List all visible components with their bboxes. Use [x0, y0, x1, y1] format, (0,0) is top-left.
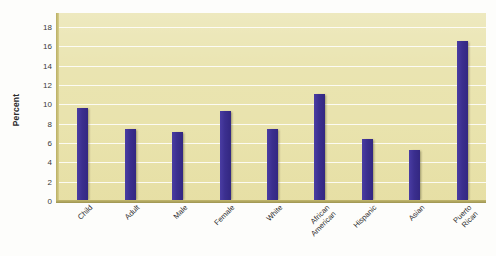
x-axis-tick-african-american: AfricanAmerican [303, 203, 338, 238]
bar-child [77, 108, 88, 201]
x-axis-tick-hispanic: Hispanic [352, 203, 379, 230]
x-axis-tick-female: Female [212, 203, 236, 227]
x-axis-tick-male: Male [171, 203, 189, 221]
gridline-16 [59, 46, 486, 47]
bar-hispanic [362, 139, 373, 201]
gridline-8 [59, 124, 486, 125]
y-axis-tick-6: 6 [48, 139, 52, 148]
bar-asian [409, 150, 420, 201]
y-axis-title: Percent [8, 0, 24, 220]
x-axis-tick-white: White [264, 203, 284, 223]
bar-female [220, 111, 231, 201]
bar-puerto-rican [457, 41, 468, 201]
y-axis-tick-10: 10 [43, 100, 52, 109]
bar-adult [125, 129, 136, 201]
plot-area [59, 13, 486, 201]
bar-white [267, 129, 278, 201]
gridline-12 [59, 85, 486, 86]
y-axis-tick-18: 18 [43, 23, 52, 32]
y-axis-tick-12: 12 [43, 81, 52, 90]
gridline-10 [59, 104, 486, 105]
x-axis-tick-labels: ChildAdultMaleFemaleWhiteAfricanAmerican… [0, 203, 496, 256]
bar-african-american [314, 94, 325, 201]
x-axis-tick-adult: Adult [123, 203, 141, 221]
y-axis-tick-16: 16 [43, 42, 52, 51]
y-axis-title-label: Percent [11, 94, 21, 127]
x-axis-tick-puerto-rican: PuertoRican [452, 203, 480, 231]
y-axis-tick-8: 8 [48, 119, 52, 128]
bar-chart-figure: Percent 024681012141618 ChildAdultMaleFe… [0, 0, 496, 256]
y-axis-tick-4: 4 [48, 158, 52, 167]
gridline-14 [59, 66, 486, 67]
x-axis-tick-child: Child [76, 203, 94, 221]
y-axis-tick-14: 14 [43, 61, 52, 70]
bar-male [172, 132, 183, 201]
x-axis-tick-asian: Asian [407, 203, 427, 223]
gridline-18 [59, 27, 486, 28]
y-axis-tick-2: 2 [48, 177, 52, 186]
